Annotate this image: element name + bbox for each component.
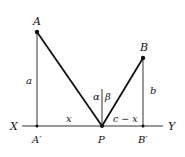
label-segment-b: b [150, 85, 156, 96]
label-b-point: B [139, 41, 148, 54]
label-b-prime: B′ [137, 134, 148, 145]
label-segment-c-minus-x: c − x [113, 113, 138, 124]
point-b-prime [142, 125, 145, 128]
label-x-axis: X [9, 120, 19, 133]
label-a-prime: A′ [31, 134, 42, 145]
point-a-prime [36, 125, 39, 128]
label-angle-beta: β [104, 91, 111, 102]
label-angle-alpha: α [93, 91, 100, 102]
label-y-axis: Y [168, 120, 177, 133]
point-a [35, 30, 39, 34]
label-p: P [97, 134, 105, 145]
segment-ap [37, 32, 102, 126]
point-p [100, 124, 104, 128]
label-segment-x: x [66, 113, 72, 124]
reflection-diagram: A B A′ P B′ X Y a b x c − x α β [0, 0, 185, 157]
point-b [141, 56, 145, 60]
label-segment-a: a [26, 75, 32, 86]
label-a-point: A [32, 15, 41, 28]
